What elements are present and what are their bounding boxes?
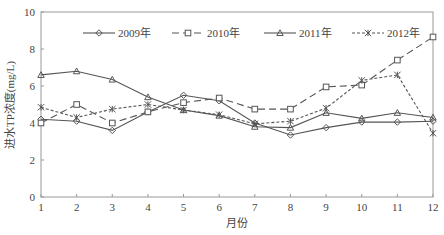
legend-item: 2011年	[264, 26, 332, 39]
y-tick-label: 0	[30, 191, 36, 203]
square-marker-icon	[181, 100, 187, 106]
y-tick-label: 6	[30, 80, 36, 92]
series-line	[41, 95, 433, 135]
legend: 2009年2010年2011年2012年	[83, 26, 420, 39]
square-marker-icon	[74, 102, 80, 108]
x-tick-label: 5	[181, 201, 187, 213]
axes	[41, 12, 433, 197]
y-tick-label: 8	[30, 43, 36, 55]
square-marker-icon	[288, 106, 294, 112]
x-tick-label: 12	[428, 201, 439, 213]
square-marker-icon	[395, 57, 401, 63]
legend-label: 2009年	[118, 26, 151, 39]
square-marker-icon	[109, 120, 115, 126]
x-tick-label: 10	[356, 201, 368, 213]
star-marker-icon	[73, 114, 79, 120]
square-marker-icon	[323, 84, 329, 90]
y-tick-label: 10	[24, 6, 36, 18]
series-2009	[38, 92, 436, 138]
square-marker-icon	[216, 95, 222, 101]
legend-label: 2010年	[207, 26, 240, 39]
data-series	[38, 34, 436, 138]
star-marker-icon	[216, 111, 222, 117]
square-marker-icon	[430, 34, 436, 40]
series-line	[41, 71, 433, 127]
star-marker-icon	[359, 77, 365, 83]
legend-item: 2009年	[83, 26, 151, 39]
series-line	[41, 37, 433, 123]
x-tick-label: 3	[110, 201, 116, 213]
star-marker-icon	[323, 105, 329, 111]
x-tick-label: 7	[252, 201, 258, 213]
x-tick-label: 8	[288, 201, 294, 213]
x-tick-label: 4	[145, 201, 151, 213]
y-axis-title: 进水TP浓度(mg/L)	[3, 61, 17, 149]
x-tick-label: 2	[74, 201, 80, 213]
line-chart: 0246810 123456789101112 2009年2010年2011年2…	[0, 0, 444, 235]
plot-frame	[41, 12, 433, 197]
legend-label: 2011年	[299, 26, 332, 39]
x-tick-label: 9	[323, 201, 329, 213]
series-2011	[38, 68, 436, 130]
star-marker-icon	[365, 30, 371, 36]
x-tick-label: 6	[216, 201, 222, 213]
star-marker-icon	[430, 130, 436, 136]
legend-item: 2012年	[352, 26, 420, 39]
square-marker-icon	[145, 109, 151, 115]
legend-item: 2010年	[172, 26, 240, 39]
x-tick-label: 1	[38, 201, 44, 213]
star-marker-icon	[38, 104, 44, 110]
x-tick-label: 11	[392, 201, 403, 213]
square-marker-icon	[38, 120, 44, 126]
legend-label: 2012年	[387, 26, 420, 39]
square-marker-icon	[185, 30, 191, 36]
y-tick-label: 2	[30, 154, 36, 166]
square-marker-icon	[252, 106, 258, 112]
y-tick-label: 4	[30, 117, 36, 129]
x-axis-title: 月份	[226, 217, 248, 229]
